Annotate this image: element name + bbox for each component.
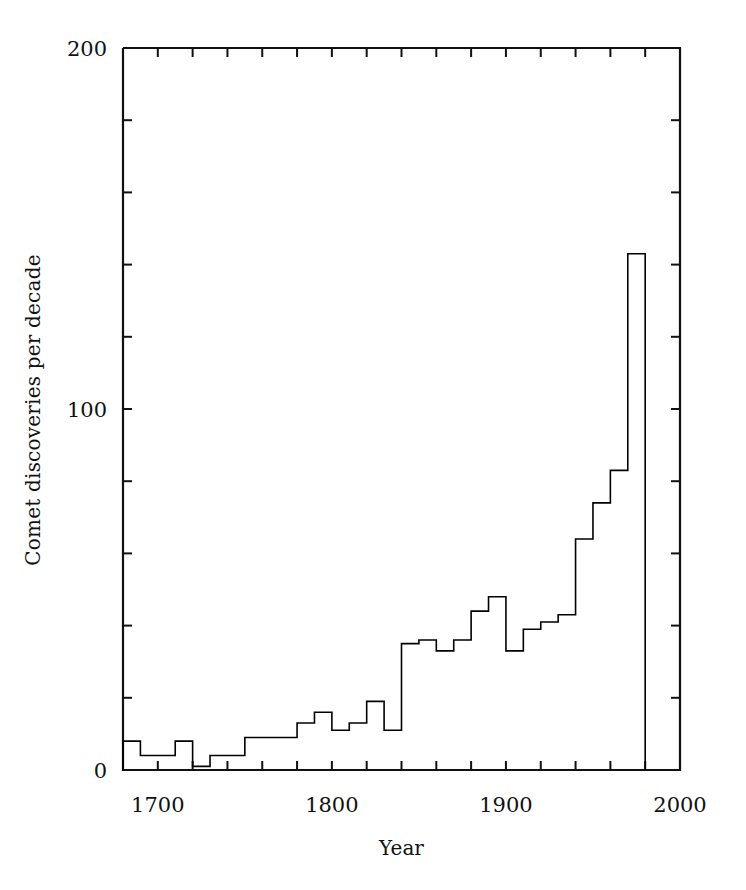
comet-discoveries-chart: Comet discoveries per decade Year 010020… <box>0 0 746 890</box>
svg-text:1800: 1800 <box>305 793 358 817</box>
x-tick-labels: 1700180019002000 <box>131 793 707 817</box>
step-line-series <box>123 254 645 770</box>
y-tick-labels: 0100200 <box>67 37 107 783</box>
svg-text:1700: 1700 <box>131 793 184 817</box>
svg-text:1900: 1900 <box>479 793 532 817</box>
svg-text:2000: 2000 <box>653 793 706 817</box>
svg-text:200: 200 <box>67 37 107 61</box>
plot-area: 0100200 1700180019002000 <box>0 0 746 890</box>
svg-text:0: 0 <box>94 759 107 783</box>
svg-text:100: 100 <box>67 398 107 422</box>
